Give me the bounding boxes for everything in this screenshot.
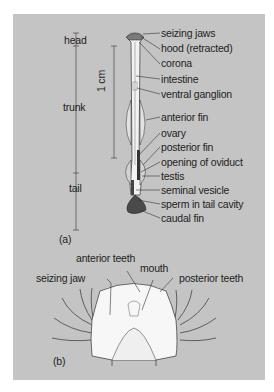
label-hood: hood (retracted) xyxy=(161,43,233,54)
body-region-axis xyxy=(73,33,79,230)
arrow-worm-illustration xyxy=(0,0,274,392)
label-corona: corona xyxy=(161,58,192,69)
label-posterior-teeth: posterior teeth xyxy=(179,273,243,284)
label-ventral-ganglion: ventral ganglion xyxy=(161,89,232,100)
label-mouth: mouth xyxy=(140,263,168,274)
label-intestine: intestine xyxy=(161,74,198,85)
scale-bar xyxy=(111,46,117,158)
label-anterior-fin: anterior fin xyxy=(161,112,208,123)
scale-bar-label: 1 cm xyxy=(96,70,107,92)
region-label-tail: tail xyxy=(69,183,82,194)
label-sperm-in-tail-cavity: sperm in tail cavity xyxy=(161,199,243,210)
label-seizing-jaws: seizing jaws xyxy=(161,28,215,39)
label-testis: testis xyxy=(161,171,184,182)
head-ventral-view xyxy=(52,284,216,367)
label-caudal-fin: caudal fin xyxy=(161,213,204,224)
label-opening-of-oviduct: opening of oviduct xyxy=(161,157,243,168)
panel-b-tag: (b) xyxy=(53,356,65,367)
panel-a-tag: (a) xyxy=(59,234,71,245)
label-seizing-jaw: seizing jaw xyxy=(36,273,85,284)
region-label-head: head xyxy=(64,35,87,46)
label-anterior-teeth: anterior teeth xyxy=(76,253,135,264)
label-posterior-fin: posterior fin xyxy=(161,142,213,153)
label-ovary: ovary xyxy=(161,128,186,139)
arrow-worm-body xyxy=(126,33,147,214)
label-seminal-vesicle: seminal vesicle xyxy=(161,185,229,196)
region-label-trunk: trunk xyxy=(63,102,85,113)
